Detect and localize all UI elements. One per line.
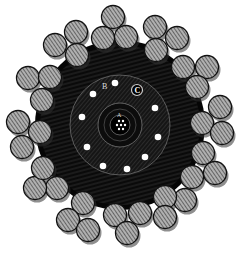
armor-wire bbox=[211, 122, 234, 145]
core-strand bbox=[118, 128, 120, 130]
armor-wire bbox=[102, 6, 125, 29]
armor-wire bbox=[209, 96, 232, 119]
armor-wire bbox=[181, 166, 204, 189]
core-strand bbox=[120, 124, 122, 126]
conductor-dot bbox=[152, 105, 159, 112]
armor-wire bbox=[166, 27, 189, 50]
armor-wire bbox=[192, 142, 215, 165]
armor-wire bbox=[44, 34, 67, 57]
conductor-dot bbox=[155, 134, 162, 141]
armor-wire bbox=[17, 67, 40, 90]
cable-cross-section-figure: C B A bbox=[0, 0, 241, 255]
core-strand bbox=[122, 120, 124, 122]
armor-wire bbox=[144, 16, 167, 39]
armor-wire bbox=[174, 189, 197, 212]
label-b: B bbox=[102, 82, 107, 91]
conductor-dot bbox=[84, 144, 91, 151]
conductor-dot bbox=[100, 163, 107, 170]
conductor-dot bbox=[79, 114, 86, 121]
armor-wire bbox=[29, 121, 52, 144]
armor-wire bbox=[145, 39, 168, 62]
armor-wire bbox=[46, 177, 69, 200]
core-strand bbox=[116, 124, 118, 126]
label-c: C bbox=[135, 86, 141, 95]
armor-wire bbox=[116, 222, 139, 245]
armor-wire bbox=[204, 162, 227, 185]
armor-wire bbox=[186, 76, 209, 99]
armor-wire bbox=[31, 89, 54, 112]
armor-wire bbox=[39, 66, 62, 89]
armor-wire bbox=[129, 202, 152, 225]
core-strand bbox=[118, 120, 120, 122]
armor-wire bbox=[115, 26, 138, 49]
conductor-dot bbox=[142, 154, 149, 161]
core-strand bbox=[122, 128, 124, 130]
armor-wire bbox=[154, 206, 177, 229]
armor-wire bbox=[92, 27, 115, 50]
armor-wire bbox=[172, 56, 195, 79]
conductor-dot bbox=[124, 166, 131, 173]
armor-wire bbox=[66, 44, 89, 67]
label-a: A bbox=[117, 112, 122, 118]
armor-wire bbox=[77, 219, 100, 242]
conductor-dot bbox=[112, 80, 119, 87]
armor-wire bbox=[65, 21, 88, 44]
conductor-dot bbox=[90, 91, 97, 98]
armor-wire bbox=[32, 157, 55, 180]
core-strand bbox=[124, 124, 126, 126]
armor-wire bbox=[7, 111, 30, 134]
